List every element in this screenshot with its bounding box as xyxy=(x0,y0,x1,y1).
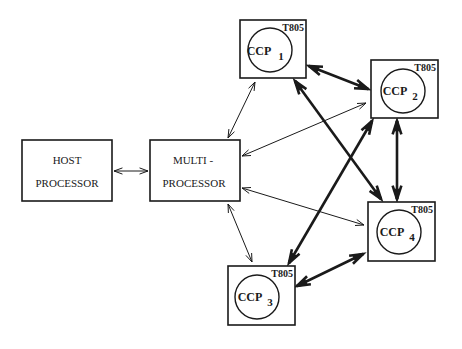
connection-host-multi xyxy=(114,168,148,174)
host-processor-node: HOST PROCESSOR xyxy=(22,140,112,201)
connection-line xyxy=(228,204,252,262)
connection-multi-ccp3 xyxy=(228,204,252,262)
connection-line xyxy=(297,254,363,286)
ccp2-index: 2 xyxy=(412,90,418,102)
connection-line xyxy=(242,188,364,225)
ccp3-chip-label: T805 xyxy=(271,268,293,279)
connection-multi-ccp2 xyxy=(242,103,366,156)
ccp1-chip-label: T805 xyxy=(282,22,304,33)
processor-network-diagram: HOST PROCESSOR MULTI - PROCESSOR T805 CC… xyxy=(0,0,462,349)
connection-line xyxy=(289,121,372,263)
host-label-line2: PROCESSOR xyxy=(36,177,100,189)
host-processor-box xyxy=(22,140,112,201)
ccp4-label: CCP xyxy=(380,225,405,239)
ccp4-node: T805 CCP 4 xyxy=(368,202,435,261)
connection-line xyxy=(309,66,368,89)
ccp1-node: T805 CCP 1 xyxy=(240,20,306,78)
connection-ccp2-ccp4 xyxy=(393,121,402,199)
connection-ccp2-ccp3 xyxy=(289,121,372,263)
ccp2-label: CCP xyxy=(383,84,408,98)
connection-multi-ccp4 xyxy=(242,188,364,226)
ccp1-index: 1 xyxy=(278,50,284,62)
multiprocessor-node: MULTI - PROCESSOR xyxy=(150,140,240,201)
multi-label-line1: MULTI - xyxy=(173,154,214,166)
ccp3-index: 3 xyxy=(267,296,273,308)
ccp3-label: CCP xyxy=(238,290,263,304)
connection-multi-ccp1 xyxy=(228,82,255,138)
connection-ccp3-ccp4 xyxy=(297,254,363,286)
ccp4-index: 4 xyxy=(409,231,415,243)
connection-line xyxy=(228,82,255,138)
ccp4-chip-label: T805 xyxy=(411,204,433,215)
connection-ccp1-ccp2 xyxy=(309,66,368,89)
ccp3-node: T805 CCP 3 xyxy=(228,266,295,325)
host-label-line1: HOST xyxy=(53,154,82,166)
multiprocessor-box xyxy=(150,140,240,201)
ccp2-chip-label: T805 xyxy=(414,62,436,73)
ccp2-node: T805 CCP 2 xyxy=(371,60,438,118)
ccp1-label: CCP xyxy=(247,44,272,58)
multi-label-line2: PROCESSOR xyxy=(163,177,227,189)
connection-line xyxy=(242,103,366,156)
